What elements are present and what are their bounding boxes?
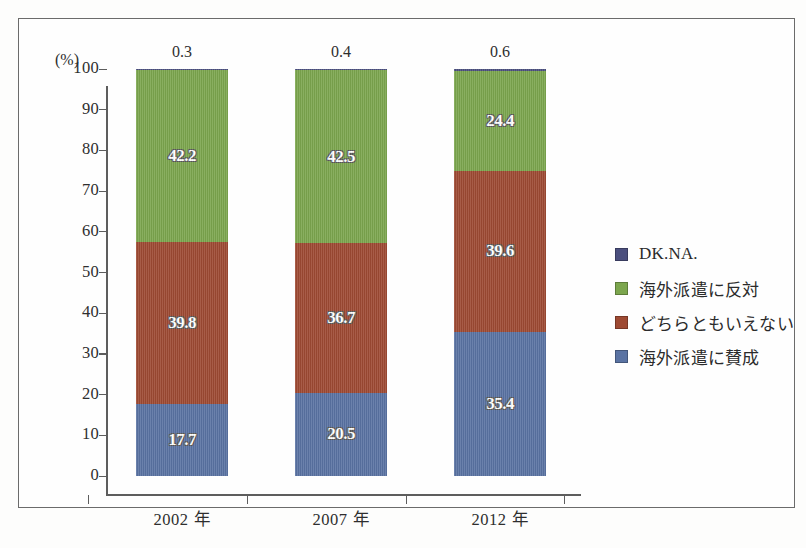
- legend-item-1[interactable]: 海外派遣に反対: [615, 271, 795, 305]
- bar-top-value-label: 0.4: [295, 43, 387, 61]
- segment-value-label: 36.7: [327, 308, 355, 328]
- legend-label: DK.NA.: [639, 244, 698, 264]
- chart-legend: DK.NA.海外派遣に反対どちらともいえない海外派遣に賛成: [615, 237, 795, 373]
- y-tick-label-30: 30: [55, 343, 99, 363]
- bar-segment-海外派遣に賛成[interactable]: 17.7: [136, 404, 228, 476]
- bar-segment-海外派遣に賛成[interactable]: 20.5: [295, 393, 387, 476]
- bar-top-value-label: 0.6: [454, 43, 546, 61]
- y-tick-label-40: 40: [55, 302, 99, 322]
- bar-segment-海外派遣に反対[interactable]: 24.4: [454, 71, 546, 170]
- y-tick-80: [99, 150, 107, 151]
- bar-top-value-label: 0.3: [136, 43, 228, 61]
- legend-label: どちらともいえない: [639, 310, 794, 335]
- x-axis-line: [106, 494, 581, 496]
- bar-2002年[interactable]: 42.239.817.7: [136, 69, 228, 476]
- segment-value-label: 35.4: [486, 394, 514, 414]
- y-tick-0: [99, 476, 107, 477]
- legend-swatch-icon: [615, 248, 628, 261]
- y-tick-label-90: 90: [55, 99, 99, 119]
- y-tick-label-100: 100: [55, 58, 99, 78]
- y-tick-label-20: 20: [55, 384, 99, 404]
- y-tick-10: [99, 435, 107, 436]
- segment-value-label: 42.2: [168, 146, 196, 166]
- y-tick-label-50: 50: [55, 262, 99, 282]
- y-tick-label-60: 60: [55, 221, 99, 241]
- chart-figure: (%) 1009080706050403020100 42.239.817.70…: [0, 0, 806, 548]
- bar-2012年[interactable]: 24.439.635.4: [454, 69, 546, 476]
- y-tick-90: [99, 109, 107, 110]
- legend-swatch-icon: [615, 282, 628, 295]
- y-tick-70: [99, 191, 107, 192]
- x-category-label-2012: 2012年: [425, 506, 575, 530]
- legend-label: 海外派遣に賛成: [639, 344, 759, 369]
- y-tick-label-0: 0: [55, 465, 99, 485]
- chart-frame: (%) 1009080706050403020100 42.239.817.70…: [18, 18, 795, 508]
- legend-item-0[interactable]: DK.NA.: [615, 237, 795, 271]
- legend-item-2[interactable]: どちらともいえない: [615, 305, 795, 339]
- bar-segment-どちらともいえない[interactable]: 39.8: [136, 242, 228, 404]
- x-category-label-2002: 2002年: [107, 506, 257, 530]
- x-category-label-2007: 2007年: [266, 506, 416, 530]
- x-tick-3: [564, 495, 565, 504]
- y-tick-label-70: 70: [55, 180, 99, 200]
- bar-2007年[interactable]: 42.536.720.5: [295, 69, 387, 476]
- y-tick-40: [99, 313, 107, 314]
- x-tick-2: [406, 495, 407, 504]
- y-tick-30: [99, 353, 107, 354]
- legend-label: 海外派遣に反対: [639, 276, 759, 301]
- bar-segment-どちらともいえない[interactable]: 39.6: [454, 171, 546, 332]
- y-tick-label-80: 80: [55, 139, 99, 159]
- legend-item-3[interactable]: 海外派遣に賛成: [615, 339, 795, 373]
- segment-value-label: 39.8: [168, 313, 196, 333]
- y-tick-label-10: 10: [55, 424, 99, 444]
- y-tick-50: [99, 272, 107, 273]
- bar-segment-どちらともいえない[interactable]: 36.7: [295, 243, 387, 392]
- legend-swatch-icon: [615, 316, 628, 329]
- segment-value-label: 24.4: [486, 111, 514, 131]
- y-tick-60: [99, 231, 107, 232]
- legend-swatch-icon: [615, 350, 628, 363]
- segment-value-label: 42.5: [327, 147, 355, 167]
- y-tick-20: [99, 394, 107, 395]
- bar-segment-海外派遣に反対[interactable]: 42.2: [136, 70, 228, 242]
- y-axis-line: [106, 86, 108, 495]
- y-tick-100: [99, 69, 107, 70]
- segment-value-label: 39.6: [486, 241, 514, 261]
- segment-value-label: 17.7: [168, 430, 196, 450]
- x-tick-1: [247, 495, 248, 504]
- x-tick-0: [88, 495, 89, 504]
- bar-segment-海外派遣に反対[interactable]: 42.5: [295, 70, 387, 243]
- segment-value-label: 20.5: [327, 424, 355, 444]
- bar-segment-海外派遣に賛成[interactable]: 35.4: [454, 332, 546, 476]
